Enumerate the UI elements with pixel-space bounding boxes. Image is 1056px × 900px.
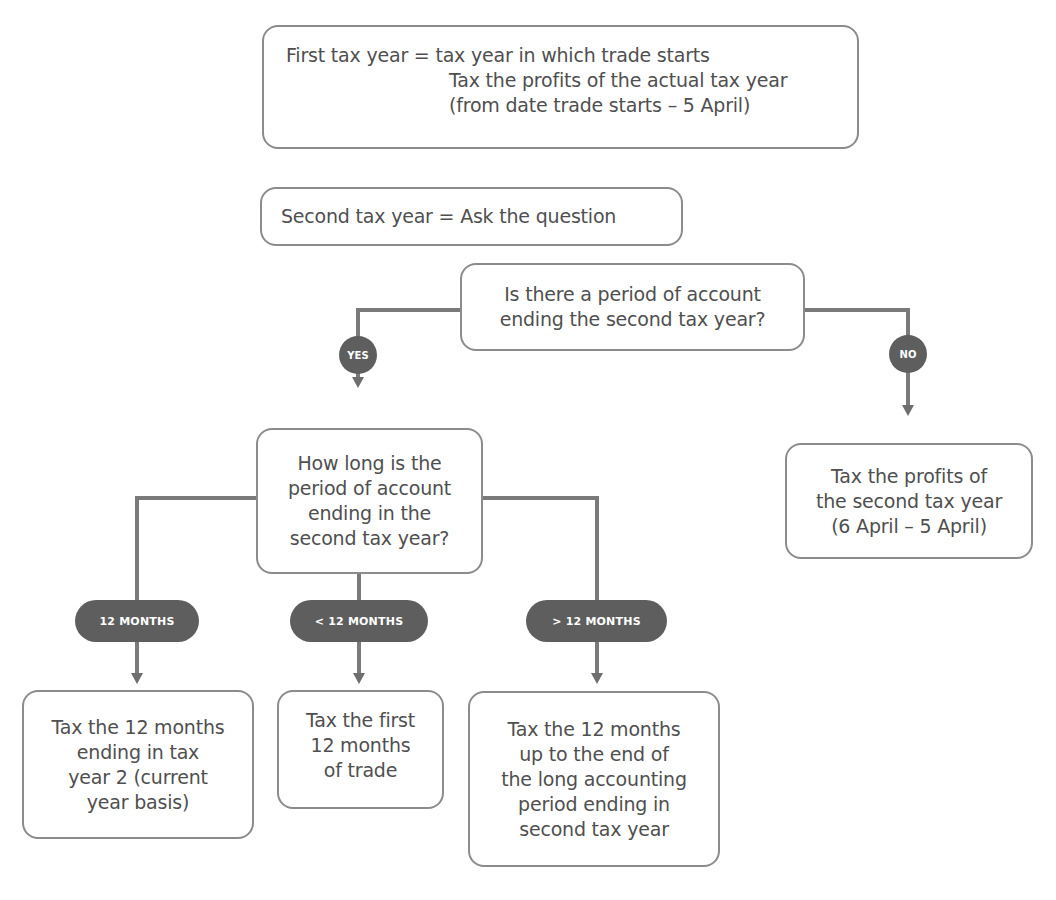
question-period-length-box: How long is the period of account ending… <box>256 428 483 574</box>
result-less-than-12-months-box: Tax the first 12 months of trade <box>277 690 444 809</box>
result-12-line4: year basis) <box>87 790 189 815</box>
arrow-12-icon <box>131 673 143 684</box>
branch-horizontal-right <box>480 496 599 500</box>
second-tax-year-label: Second tax year = Ask the question <box>281 205 616 227</box>
no-result-line3: (6 April – 5 April) <box>831 514 987 539</box>
first-tax-year-rule-line2: (from date trade starts – 5 April) <box>449 93 857 118</box>
question-1-line1: Is there a period of account <box>504 282 761 307</box>
branch-badge-less-than-12-months: < 12 MONTHS <box>290 600 428 642</box>
question-2-line2: period of account <box>288 476 451 501</box>
second-tax-year-box: Second tax year = Ask the question <box>260 187 683 246</box>
branch-badge-more-than-12-months: > 12 MONTHS <box>526 600 667 642</box>
question-period-of-account-box: Is there a period of account ending the … <box>460 263 805 351</box>
no-result-line1: Tax the profits of <box>831 464 987 489</box>
result-12-line3: year 2 (current <box>68 765 208 790</box>
result-more-12-line5: second tax year <box>519 817 669 842</box>
result-more-than-12-months-box: Tax the 12 months up to the end of the l… <box>468 691 720 867</box>
arrow-more-12-icon <box>591 673 603 684</box>
no-badge: NO <box>889 335 927 373</box>
yes-badge: YES <box>339 336 377 374</box>
result-less-12-line3: of trade <box>324 758 397 783</box>
question-2-line1: How long is the <box>298 451 442 476</box>
question-1-line2: ending the second tax year? <box>500 307 766 332</box>
branch-vertical-12 <box>135 496 139 676</box>
result-more-12-line4: period ending in <box>518 792 670 817</box>
result-more-12-line2: up to the end of <box>519 742 668 767</box>
result-less-12-line2: 12 months <box>311 733 411 758</box>
yes-connector-horizontal <box>356 308 462 312</box>
first-tax-year-rule-line1: Tax the profits of the actual tax year <box>449 68 857 93</box>
arrow-less-12-icon <box>353 673 365 684</box>
question-2-line4: second tax year? <box>290 526 449 551</box>
result-12-months-box: Tax the 12 months ending in tax year 2 (… <box>22 690 254 839</box>
no-connector-horizontal <box>803 308 910 312</box>
first-tax-year-box: First tax year = tax year in which trade… <box>262 25 859 149</box>
result-more-12-line1: Tax the 12 months <box>508 717 681 742</box>
result-less-12-line1: Tax the first <box>306 708 415 733</box>
no-result-box: Tax the profits of the second tax year (… <box>785 443 1033 559</box>
no-arrow-icon <box>902 405 914 416</box>
branch-badge-12-months: 12 MONTHS <box>75 600 199 642</box>
result-12-line2: ending in tax <box>77 740 199 765</box>
result-12-line1: Tax the 12 months <box>52 715 225 740</box>
branch-horizontal-left <box>135 496 258 500</box>
first-tax-year-definition: First tax year = tax year in which trade… <box>286 43 857 68</box>
question-2-line3: ending in the <box>308 501 431 526</box>
result-more-12-line3: the long accounting <box>501 767 687 792</box>
no-result-line2: the second tax year <box>816 489 1002 514</box>
branch-vertical-more-12 <box>595 496 599 676</box>
yes-arrow-icon <box>352 377 364 388</box>
